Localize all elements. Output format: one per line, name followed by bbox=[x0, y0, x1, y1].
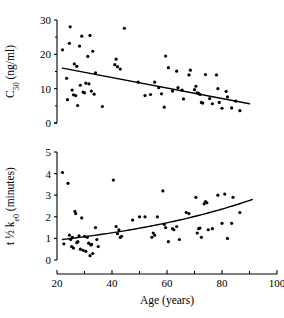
data-point bbox=[72, 247, 75, 250]
scatter-points-c50-vs-age bbox=[61, 25, 242, 112]
data-point bbox=[211, 227, 214, 230]
data-point bbox=[62, 242, 65, 245]
data-point bbox=[119, 68, 122, 71]
data-point bbox=[175, 225, 178, 228]
data-point bbox=[167, 66, 170, 69]
data-point bbox=[164, 54, 167, 57]
data-point bbox=[216, 87, 219, 90]
data-point bbox=[164, 226, 167, 229]
y-tick-label: 1 bbox=[46, 232, 52, 244]
data-point bbox=[116, 65, 119, 68]
data-point bbox=[207, 228, 210, 231]
data-point bbox=[84, 250, 87, 253]
data-point bbox=[198, 226, 201, 229]
data-point bbox=[215, 73, 218, 76]
data-point bbox=[80, 35, 83, 38]
data-point bbox=[226, 95, 229, 98]
data-point bbox=[95, 238, 98, 241]
data-point bbox=[84, 82, 87, 85]
data-point bbox=[182, 97, 185, 100]
data-point bbox=[79, 84, 82, 87]
x-tick-label: 20 bbox=[52, 277, 64, 289]
y-tick-label: 2 bbox=[46, 211, 52, 223]
data-point bbox=[65, 77, 68, 80]
data-point bbox=[120, 235, 123, 238]
data-point bbox=[150, 236, 153, 239]
y-tick-label: 0 bbox=[46, 117, 52, 129]
data-point bbox=[74, 94, 77, 97]
data-point bbox=[163, 106, 166, 109]
data-point bbox=[88, 34, 91, 37]
data-point bbox=[226, 237, 229, 240]
x-tick-label: 60 bbox=[162, 277, 174, 289]
data-point bbox=[238, 211, 241, 214]
data-point bbox=[66, 182, 69, 185]
data-point bbox=[223, 193, 226, 196]
data-point bbox=[113, 63, 116, 66]
data-point bbox=[225, 90, 228, 93]
data-point bbox=[90, 243, 93, 246]
data-point bbox=[123, 27, 126, 30]
x-tick-label: 100 bbox=[269, 277, 284, 289]
data-point bbox=[101, 105, 104, 108]
data-point bbox=[74, 212, 77, 215]
data-point bbox=[187, 73, 190, 76]
data-point bbox=[71, 88, 74, 91]
y-tick-label: 0 bbox=[46, 254, 52, 266]
data-point bbox=[230, 222, 233, 225]
data-point bbox=[153, 234, 156, 237]
data-point bbox=[61, 48, 64, 51]
x-axis-title: Age (years) bbox=[140, 294, 194, 307]
data-point bbox=[79, 248, 82, 251]
data-point bbox=[87, 82, 90, 85]
data-point bbox=[91, 252, 94, 255]
data-point bbox=[238, 109, 241, 112]
data-point bbox=[76, 104, 79, 107]
data-point bbox=[138, 215, 141, 218]
data-point bbox=[90, 89, 93, 92]
data-point bbox=[115, 225, 118, 228]
data-point bbox=[205, 201, 208, 204]
chart-canvas: 0102030C50 (ng/ml)01234520406080100Age (… bbox=[0, 0, 284, 318]
x-tick-label: 80 bbox=[217, 277, 229, 289]
data-point bbox=[80, 216, 83, 219]
data-point bbox=[66, 98, 69, 101]
data-point bbox=[216, 194, 219, 197]
data-point bbox=[143, 215, 146, 218]
data-point bbox=[175, 70, 178, 73]
data-point bbox=[230, 106, 233, 109]
y-axis-title: t ½ ke0 (minutes) bbox=[4, 167, 21, 245]
y-tick-label: 3 bbox=[46, 189, 52, 201]
figure-container: 0102030C50 (ng/ml)01234520406080100Age (… bbox=[0, 0, 284, 318]
data-point bbox=[131, 218, 134, 221]
data-point bbox=[172, 228, 175, 231]
data-point bbox=[83, 91, 86, 94]
data-point bbox=[187, 212, 190, 215]
data-point bbox=[194, 196, 197, 199]
data-point bbox=[194, 85, 197, 88]
y-tick-label: 10 bbox=[40, 83, 52, 95]
data-point bbox=[156, 215, 159, 218]
data-point bbox=[218, 101, 221, 104]
data-point bbox=[149, 93, 152, 96]
data-point bbox=[153, 81, 156, 84]
x-tick-label: 40 bbox=[107, 277, 119, 289]
data-point bbox=[68, 234, 71, 237]
data-point bbox=[68, 42, 71, 45]
y-tick-label: 30 bbox=[40, 14, 52, 26]
data-point bbox=[78, 44, 81, 47]
data-point bbox=[220, 107, 223, 110]
data-point bbox=[189, 69, 192, 72]
data-point bbox=[211, 102, 214, 105]
y-tick-label: 20 bbox=[40, 48, 52, 60]
data-point bbox=[86, 55, 89, 58]
data-point bbox=[82, 249, 85, 252]
data-point bbox=[176, 86, 179, 89]
data-point bbox=[160, 92, 163, 95]
regression-line bbox=[63, 68, 250, 104]
data-point bbox=[143, 94, 146, 97]
data-point bbox=[231, 196, 234, 199]
data-point bbox=[167, 240, 170, 243]
data-point bbox=[112, 178, 115, 181]
panel-c50-vs-age: 0102030C50 (ng/ml) bbox=[4, 14, 250, 129]
